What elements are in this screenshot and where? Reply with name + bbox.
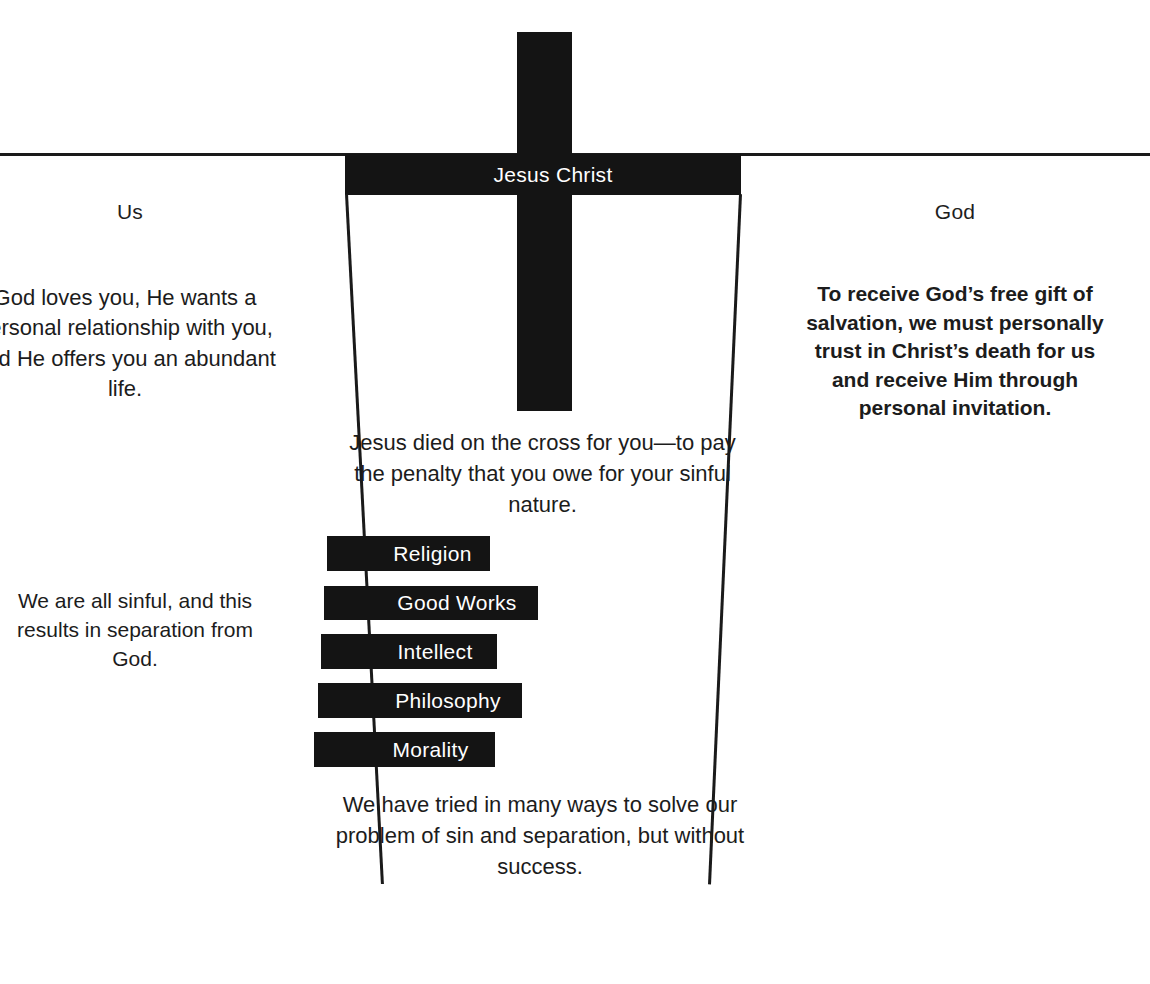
center-top-paragraph: Jesus died on the cross for you—to pay t… [345,428,740,520]
attempt-bar-morality: Morality [314,732,495,767]
right-paragraph: To receive God’s free gift of salvation,… [800,280,1110,423]
left-top-paragraph: God loves you, He wants a personal relat… [0,283,280,404]
heading-us: Us [30,200,230,224]
attempt-bar-intellect: Intellect [321,634,497,669]
jesus-christ-label: Jesus Christ [345,154,741,195]
bridge-illustration-canvas: Jesus Christ Us God loves you, He wants … [0,0,1150,984]
center-bottom-paragraph: We have tried in many ways to solve our … [330,790,750,882]
right-rail-line [708,194,742,884]
attempt-bar-religion: Religion [327,536,490,571]
heading-god: God [855,200,1055,224]
left-bottom-paragraph: We are all sinful, and this results in s… [10,587,260,674]
attempt-bar-good-works: Good Works [324,586,538,620]
cross-vertical-beam [517,32,572,411]
attempt-bar-philosophy: Philosophy [318,683,522,718]
